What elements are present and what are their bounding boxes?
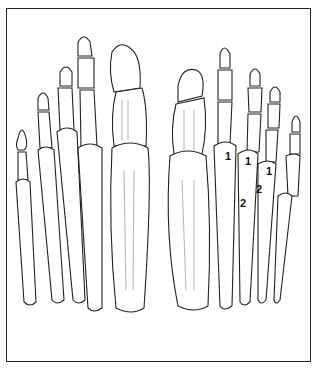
label-1c: 1 <box>266 165 272 177</box>
label-1b: 1 <box>245 155 251 167</box>
right-foot <box>168 48 300 310</box>
label-2a: 2 <box>256 183 262 195</box>
left-foot <box>16 37 149 312</box>
label-1a: 1 <box>225 150 231 162</box>
label-2b: 2 <box>240 197 246 209</box>
foot-bones-drawing <box>0 0 320 374</box>
